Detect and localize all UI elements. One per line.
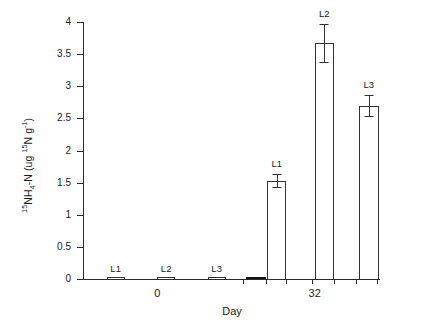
x-tick-4 bbox=[334, 279, 335, 284]
y-axis-title-sup-15: 15 bbox=[21, 204, 28, 212]
error-cap-d32-l1-lower bbox=[272, 187, 281, 188]
bar-d32-l3 bbox=[359, 106, 378, 279]
y-axis-title-base-1: NH bbox=[21, 189, 33, 204]
x-tick-5 bbox=[356, 279, 357, 284]
y-tick-label-2.5: 2.5 bbox=[57, 113, 71, 123]
y-axis-title-sup-15b: 15 bbox=[21, 144, 28, 152]
y-tick-label-0: 0 bbox=[65, 274, 71, 284]
y-tick-1.5 bbox=[77, 183, 83, 184]
y-tick-label-2: 2 bbox=[65, 146, 71, 156]
bar-d0-l2 bbox=[157, 277, 175, 279]
error-cap-d32-l2-lower bbox=[320, 62, 329, 63]
bar-label-d32-l2: L2 bbox=[319, 9, 330, 19]
y-tick-label-3.5: 3.5 bbox=[57, 49, 71, 59]
y-tick-label-3: 3 bbox=[65, 81, 71, 91]
error-cap-d32-l2-upper bbox=[320, 24, 329, 25]
y-tick-4 bbox=[77, 22, 83, 23]
y-tick-label-1: 1 bbox=[65, 210, 71, 220]
chart-figure: 15NH4-N (ug 15N g-1) 00.511.522.533.54 L… bbox=[0, 0, 430, 331]
y-axis-title-base-2: -N (ug bbox=[21, 152, 33, 185]
y-axis-title-sup-neg1: -1 bbox=[21, 121, 28, 127]
y-tick-1 bbox=[77, 215, 83, 216]
y-tick-0.5 bbox=[77, 247, 83, 248]
bar-d32-l2 bbox=[315, 43, 334, 279]
y-tick-2 bbox=[77, 151, 83, 152]
error-cap-d32-l3-lower bbox=[364, 116, 373, 117]
bar-label-d0-l1: L1 bbox=[110, 264, 121, 274]
y-tick-label-1.5: 1.5 bbox=[57, 178, 71, 188]
y-axis-title: 15NH4-N (ug 15N g-1) bbox=[16, 60, 40, 270]
y-tick-3 bbox=[77, 86, 83, 87]
group-label-32: 32 bbox=[309, 288, 321, 299]
y-axis-title-base-3: N g bbox=[21, 128, 33, 145]
x-tick-2 bbox=[286, 279, 287, 284]
group-label-0: 0 bbox=[154, 288, 160, 299]
plot-area: 00.511.522.533.54 L1L2L3L1L2L3 032 bbox=[83, 22, 380, 279]
error-bar-d32-l1 bbox=[277, 174, 278, 187]
error-cap-d32-l3-upper bbox=[364, 95, 373, 96]
error-cap-d32-l1-upper bbox=[272, 174, 281, 175]
x-tick-0 bbox=[243, 279, 244, 284]
y-tick-0 bbox=[77, 279, 83, 280]
x-tick-1 bbox=[266, 279, 267, 284]
x-axis-line bbox=[83, 279, 380, 280]
y-tick-3.5 bbox=[77, 54, 83, 55]
bar-d0-l1 bbox=[107, 277, 125, 279]
error-bar-d32-l3 bbox=[369, 95, 370, 117]
y-axis-title-text: 15NH4-N (ug 15N g-1) bbox=[21, 118, 36, 213]
y-tick-label-0.5: 0.5 bbox=[57, 242, 71, 252]
x-tick-3 bbox=[312, 279, 313, 284]
y-axis-title-base-4: ) bbox=[21, 118, 33, 122]
bar-label-d0-l2: L2 bbox=[161, 264, 172, 274]
y-axis-line bbox=[83, 22, 84, 279]
bar-label-d0-l3: L3 bbox=[211, 264, 222, 274]
y-tick-label-4: 4 bbox=[65, 17, 71, 27]
bar-label-d32-l3: L3 bbox=[364, 80, 375, 90]
error-bar-d32-l2 bbox=[324, 24, 325, 63]
y-tick-2.5 bbox=[77, 118, 83, 119]
bar-d32-marker bbox=[246, 277, 265, 279]
x-tick-6 bbox=[377, 279, 378, 284]
bar-label-d32-l1: L1 bbox=[271, 159, 282, 169]
x-axis-title: Day bbox=[222, 305, 242, 317]
bar-d0-l3 bbox=[208, 277, 226, 279]
bar-d32-l1 bbox=[267, 181, 286, 279]
